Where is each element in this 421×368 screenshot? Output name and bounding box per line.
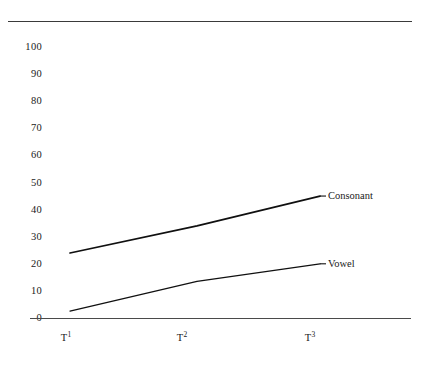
series-line-vowel <box>70 264 320 311</box>
series-label-vowel: Vowel <box>328 258 355 269</box>
data-lines <box>0 0 421 368</box>
series-line-consonant <box>70 196 320 253</box>
chart-page: 1009080706050403020100 T1T2T3 ConsonantV… <box>0 0 421 368</box>
plot-area: 1009080706050403020100 T1T2T3 ConsonantV… <box>0 0 421 368</box>
series-label-consonant: Consonant <box>328 190 373 201</box>
